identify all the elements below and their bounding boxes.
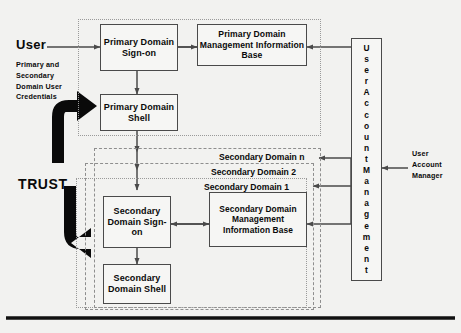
user-account-manager-label: User Account Manager [412,148,443,181]
secondary-domain-1-label: Secondary Domain 1 [204,182,289,192]
uam-vertical-letter: c [364,110,369,121]
uam-vertical-letter: e [364,65,369,76]
uam-vertical-letter: a [364,198,369,209]
primary-domain-mib-label: Primary Domain Management Information Ba… [198,29,306,60]
primary-domain-signon-label: Primary Domain Sign-on [101,37,177,59]
uam-vertical-letter: u [364,132,369,143]
uam-vertical-letter: e [364,221,369,232]
primary-domain-shell-box[interactable]: Primary Domain Shell [100,94,178,131]
primary-domain-mib-box[interactable]: Primary Domain Management Information Ba… [197,24,307,66]
uam-vertical-letter: a [364,176,369,187]
uam-vertical-letter: m [363,232,370,243]
credentials-note: Primary and Secondary Domain User Creden… [16,60,62,103]
uam-vertical-letter: o [364,121,369,132]
secondary-domain-n-label: Secondary Domain n [219,152,304,162]
uam-vertical-letter: s [364,54,369,65]
primary-domain-shell-label: Primary Domain Shell [101,102,177,124]
uam-vertical-letter: A [363,87,369,98]
uam-vertical-letter: t [365,265,368,276]
uam-vertical-letter: n [364,143,369,154]
secondary-domain-2-label: Secondary Domain 2 [211,167,296,177]
secondary-domain-signon-label: Secondary Domain Sign-on [104,206,170,239]
user-account-management-box[interactable]: UserAccountManagement [351,38,382,281]
diagram-canvas: Secondary Domain n Secondary Domain 2 Se… [0,0,461,333]
secondary-domain-signon-box[interactable]: Secondary Domain Sign-on [103,196,171,248]
uam-vertical-letter: n [364,187,369,198]
primary-domain-signon-box[interactable]: Primary Domain Sign-on [100,24,178,71]
secondary-domain-shell-box[interactable]: Secondary Domain Shell [103,264,171,304]
uam-vertical-letter: U [363,43,369,54]
secondary-domain-mib-label: Secondary Domain Management Information … [210,204,306,235]
secondary-domain-mib-box[interactable]: Secondary Domain Management Information … [209,192,307,247]
trust-label: TRUST [18,176,68,192]
uam-vertical-letter: c [364,98,369,109]
uam-vertical-letter: e [364,243,369,254]
user-label: User [16,37,46,52]
uam-vertical-letter: n [364,254,369,265]
uam-vertical-letter: r [365,76,368,87]
uam-vertical-letter: t [365,154,368,165]
secondary-domain-shell-label: Secondary Domain Shell [104,273,170,295]
uam-vertical-letter: g [364,209,369,220]
uam-vertical-letter: M [363,165,370,176]
